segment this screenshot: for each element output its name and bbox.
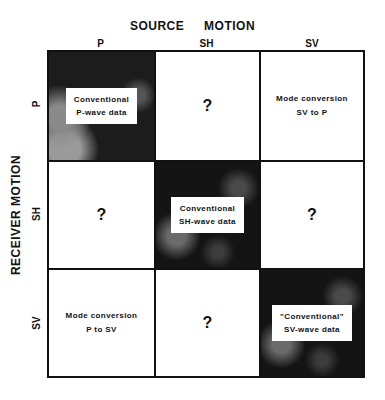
title-word-source: SOURCE [130,19,184,33]
cell-sh-p: ? [49,162,156,270]
mode-conversion-sv-to-p-label: Mode conversion SV to P [276,92,348,120]
cell-p-sh: ? [156,52,261,162]
cell-text-line2: SH-wave data [179,215,236,228]
cell-p-p: Conventional P-wave data [49,52,156,162]
conventional-p-wave-label: Conventional P-wave data [66,88,137,124]
title-word-motion: MOTION [204,19,255,33]
row-header-sh-label: SH [31,207,42,221]
cell-text-line1: Conventional [179,202,236,215]
cell-text-line1: Conventional [74,93,129,106]
cell-sh-sv: ? [261,162,363,270]
cell-text-line1: Mode conversion [276,92,348,106]
unknown-question-mark: ? [307,206,317,224]
cell-p-sv: Mode conversion SV to P [261,52,363,162]
column-header-p: P [47,38,154,49]
receiver-motion-label: RECEIVER MOTION [9,155,23,275]
row-header-p-label: P [31,101,42,108]
cell-sv-p: Mode conversion P to SV [49,270,156,376]
cell-sv-sh: ? [156,270,261,376]
column-header-sh: SH [154,38,259,49]
cell-text-line1: "Conventional" [280,310,344,323]
cell-text-line1: Mode conversion [66,309,138,323]
conventional-sh-wave-label: Conventional SH-wave data [171,197,244,233]
mode-conversion-p-to-sv-label: Mode conversion P to SV [66,309,138,337]
cell-text-line2: P-wave data [74,106,129,119]
cell-sh-sh: Conventional SH-wave data [156,162,261,270]
row-header-sv-label: SV [31,316,42,329]
cell-text-line2: P to SV [66,323,138,337]
unknown-question-mark: ? [203,314,213,332]
cell-sv-sv: "Conventional" SV-wave data [261,270,363,376]
motion-matrix: Conventional P-wave data ? Mode conversi… [47,50,365,378]
column-header-sv: SV [259,38,365,49]
unknown-question-mark: ? [203,97,213,115]
cell-text-line2: SV to P [276,106,348,120]
conventional-sv-wave-label: "Conventional" SV-wave data [272,305,352,341]
source-motion-title: SOURCE MOTION [0,19,385,33]
cell-text-line2: SV-wave data [280,323,344,336]
unknown-question-mark: ? [97,206,107,224]
